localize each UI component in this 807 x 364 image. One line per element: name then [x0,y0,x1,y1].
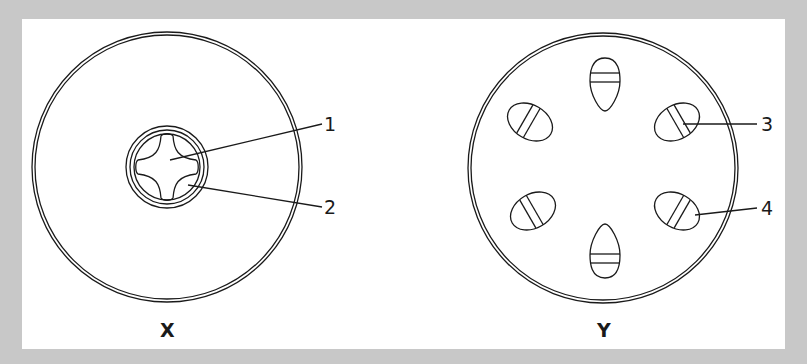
label-3: 3 [761,113,773,135]
label-2: 2 [324,196,336,218]
label-4: 4 [761,197,773,219]
figure-x [32,32,322,302]
label-1: 1 [324,113,336,135]
diagram-canvas: 1 2 3 4 X Y [0,0,807,364]
figure-y [468,33,757,303]
caption-y: Y [596,319,611,341]
caption-x: X [160,319,175,341]
